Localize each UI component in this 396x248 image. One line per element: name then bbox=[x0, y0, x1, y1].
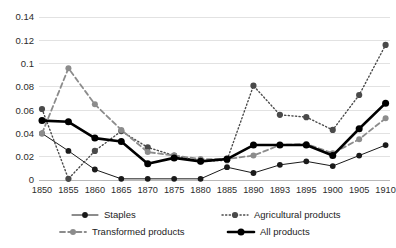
data-point-marker bbox=[92, 167, 98, 173]
data-point-marker bbox=[92, 101, 98, 107]
data-point-marker bbox=[171, 154, 178, 161]
x-axis-tick-label: 1893 bbox=[270, 185, 290, 195]
y-axis-tick-label: 0.1 bbox=[21, 58, 34, 69]
data-point-marker bbox=[65, 176, 71, 182]
data-point-marker bbox=[144, 160, 151, 167]
legend-marker-point bbox=[232, 212, 238, 218]
data-point-marker bbox=[356, 153, 362, 159]
data-point-marker bbox=[118, 176, 124, 182]
y-axis-tick-label: 0 bbox=[29, 174, 34, 185]
x-axis-tick-label: 1905 bbox=[349, 185, 369, 195]
chart-container: 00.020.040.060.080.10.120.14 18501855186… bbox=[0, 0, 396, 248]
data-point-marker bbox=[382, 100, 389, 107]
data-point-marker bbox=[250, 142, 257, 149]
data-point-marker bbox=[198, 176, 204, 182]
data-point-marker bbox=[65, 118, 72, 125]
y-axis-tick-label: 0.02 bbox=[16, 151, 35, 162]
data-point-marker bbox=[276, 142, 283, 149]
data-point-marker bbox=[224, 164, 230, 170]
data-point-marker bbox=[39, 106, 45, 112]
data-point-marker bbox=[356, 125, 363, 132]
data-point-marker bbox=[92, 148, 98, 154]
x-axis-tick-label: 1860 bbox=[85, 185, 105, 195]
x-axis-tick-label: 1890 bbox=[243, 185, 263, 195]
data-point-marker bbox=[330, 163, 336, 169]
x-axis-tick-label: 1885 bbox=[217, 185, 237, 195]
data-point-marker bbox=[277, 112, 283, 118]
data-point-marker bbox=[277, 162, 283, 168]
data-point-marker bbox=[197, 158, 204, 165]
data-point-marker bbox=[118, 138, 125, 145]
x-axis-tick-label: 1855 bbox=[58, 185, 78, 195]
y-axis-tick-label: 0.14 bbox=[16, 11, 35, 22]
legend-label: Transformed products bbox=[92, 226, 185, 237]
legend-marker-point bbox=[82, 212, 88, 218]
data-point-marker bbox=[171, 176, 177, 182]
y-axis-tick-label: 0.06 bbox=[16, 105, 35, 116]
legend-marker-point bbox=[70, 229, 76, 235]
data-point-marker bbox=[224, 156, 231, 163]
legend-label: All products bbox=[260, 226, 310, 237]
x-axis-tick-label: 1910 bbox=[375, 185, 395, 195]
x-axis-tick-label: 1900 bbox=[323, 185, 343, 195]
y-axis-tick-label: 0.08 bbox=[16, 81, 35, 92]
x-axis-tick-label: 1875 bbox=[164, 185, 184, 195]
data-point-marker bbox=[145, 176, 151, 182]
line-chart: 00.020.040.060.080.10.120.14 18501855186… bbox=[0, 0, 396, 248]
data-point-marker bbox=[303, 142, 310, 149]
y-axis-tick-label: 0.04 bbox=[16, 128, 35, 139]
legend-label: Agricultural products bbox=[254, 209, 341, 220]
data-point-marker bbox=[250, 153, 256, 159]
x-axis-tick-label: 1865 bbox=[111, 185, 131, 195]
data-point-marker bbox=[303, 158, 309, 164]
data-point-marker bbox=[383, 42, 389, 48]
data-point-marker bbox=[145, 149, 151, 155]
data-point-marker bbox=[383, 115, 389, 121]
data-point-marker bbox=[66, 148, 72, 154]
x-axis-tick-label: 1850 bbox=[32, 185, 52, 195]
data-point-marker bbox=[330, 127, 336, 133]
data-point-marker bbox=[65, 65, 71, 71]
data-point-marker bbox=[250, 83, 256, 89]
data-point-marker bbox=[383, 142, 389, 148]
data-point-marker bbox=[303, 114, 309, 120]
data-point-marker bbox=[251, 170, 257, 176]
x-axis-tick-label: 1880 bbox=[190, 185, 210, 195]
data-point-marker bbox=[118, 127, 124, 133]
data-point-marker bbox=[356, 92, 362, 98]
x-axis-tick-label: 1895 bbox=[296, 185, 316, 195]
data-point-marker bbox=[329, 152, 336, 159]
y-axis-tick-label: 0.12 bbox=[16, 35, 35, 46]
data-point-marker bbox=[356, 136, 362, 142]
legend-marker-point bbox=[238, 229, 245, 236]
x-axis-tick-label: 1870 bbox=[137, 185, 157, 195]
data-point-marker bbox=[91, 135, 98, 142]
legend-label: Staples bbox=[104, 209, 136, 220]
data-point-marker bbox=[39, 130, 45, 136]
data-point-marker bbox=[39, 117, 46, 124]
